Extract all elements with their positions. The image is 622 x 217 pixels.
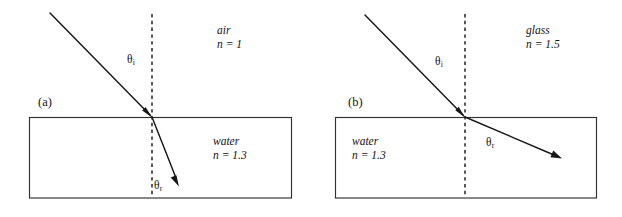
panel-b-upper-medium-label: glass n = 1.5 xyxy=(526,24,560,51)
panel-a-incident-angle-label: θi xyxy=(127,53,135,67)
panel-a-refracted-angle-subscript: r xyxy=(160,184,163,193)
panel-b-upper-medium-index: n = 1.5 xyxy=(526,38,560,52)
panel-a-upper-medium-label: air n = 1 xyxy=(217,24,242,51)
panel-a-geometry xyxy=(30,13,292,198)
panel-a-lower-medium-index: n = 1.3 xyxy=(213,149,247,163)
panel-b-lower-medium-name: water xyxy=(352,135,386,149)
panel-b-refracted-angle-subscript: r xyxy=(492,141,495,150)
panel-a-lower-medium-label: water n = 1.3 xyxy=(213,135,247,162)
panel-b-label: (b) xyxy=(348,95,363,110)
panel-b-refracted-ray xyxy=(465,117,554,155)
panel-a-refracted-angle-label: θr xyxy=(154,179,162,193)
panel-b-incident-ray xyxy=(365,15,464,116)
refraction-figure: (a) air n = 1 water n = 1.3 θi θr (b) gl… xyxy=(0,0,622,217)
panel-b-lower-medium-label: water n = 1.3 xyxy=(352,135,386,162)
panel-a-lower-medium-name: water xyxy=(213,135,247,149)
panel-b-lower-medium-index: n = 1.3 xyxy=(352,149,386,163)
panel-a-refracted-ray-arrowhead xyxy=(171,175,179,186)
panel-b-refracted-angle-label: θr xyxy=(486,136,494,150)
panel-a-incident-ray xyxy=(50,13,151,116)
panel-b-refracted-ray-arrowhead xyxy=(550,151,562,159)
panel-a-refracted-ray xyxy=(152,117,176,178)
panel-b-incident-angle-label: θi xyxy=(435,55,443,69)
panel-a-incident-angle-subscript: i xyxy=(133,58,135,67)
panel-b-incident-angle-subscript: i xyxy=(441,60,443,69)
panel-b-incident-angle-symbol: θ xyxy=(435,55,441,67)
panel-a-upper-medium-index: n = 1 xyxy=(217,38,242,52)
panel-a-incident-angle-symbol: θ xyxy=(127,53,133,65)
panel-a-label: (a) xyxy=(38,95,52,110)
panel-b-refracted-angle-symbol: θ xyxy=(486,136,492,148)
panel-a-refracted-angle-symbol: θ xyxy=(154,179,160,191)
panel-b-upper-medium-name: glass xyxy=(526,24,560,38)
panel-a-upper-medium-name: air xyxy=(217,24,242,38)
